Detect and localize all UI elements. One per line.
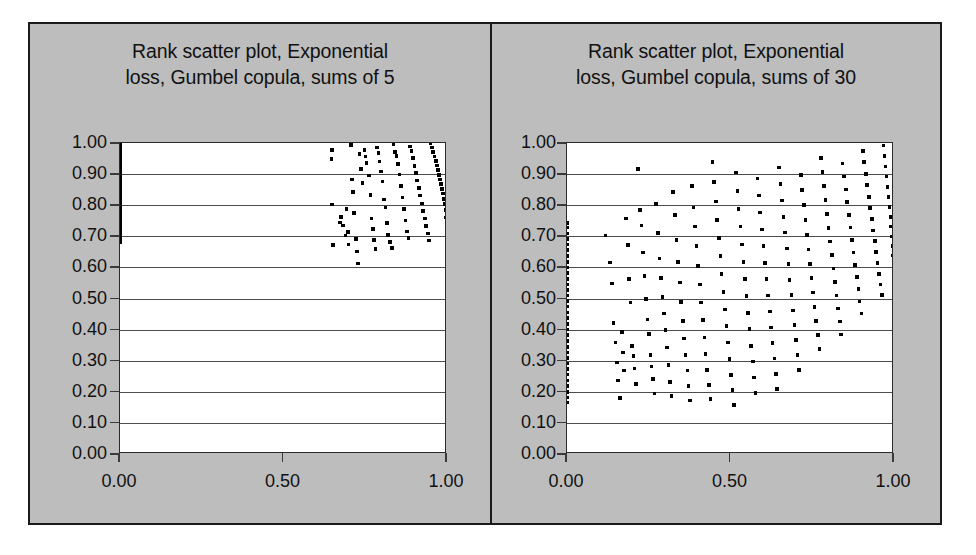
scatter-point — [610, 282, 614, 286]
scatter-point — [345, 452, 349, 453]
scatter-point — [754, 391, 758, 395]
scatter-point — [842, 175, 846, 179]
y-axis-tick-mark — [557, 360, 566, 362]
y-axis-tick-label: 0.70 — [492, 226, 556, 244]
scatter-point — [673, 452, 677, 453]
scatter-point — [566, 328, 569, 332]
scatter-point — [566, 221, 569, 225]
scatter-point — [743, 277, 747, 281]
scatter-point — [725, 324, 729, 328]
y-axis-tick-mark — [110, 173, 119, 175]
scatter-point — [420, 202, 424, 206]
y-axis-tick-mark — [557, 391, 566, 393]
scatter-point — [612, 321, 616, 325]
scatter-point — [787, 262, 791, 266]
scatter-point — [737, 207, 741, 211]
scatter-point — [824, 198, 828, 202]
plot-area-left — [119, 142, 446, 453]
scatter-point — [437, 452, 441, 453]
chart-panel-right: Rank scatter plot, Exponential loss, Gum… — [492, 24, 940, 523]
scatter-point — [791, 309, 795, 313]
scatter-point — [780, 199, 784, 203]
scatter-point — [392, 452, 396, 453]
scatter-point — [374, 247, 378, 251]
scatter-point — [363, 452, 367, 453]
scatter-point — [566, 339, 569, 343]
scatter-point — [403, 452, 407, 453]
y-axis-tick-mark — [110, 391, 119, 393]
gridline-y — [120, 361, 445, 362]
scatter-point — [712, 180, 716, 184]
scatter-point — [566, 288, 569, 292]
scatter-point — [438, 178, 442, 182]
scatter-point — [790, 293, 794, 297]
scatter-point — [647, 332, 651, 336]
scatter-point — [839, 333, 843, 337]
scatter-point — [807, 248, 811, 252]
scatter-point — [752, 376, 756, 380]
scatter-point — [729, 373, 733, 377]
scatter-point — [699, 301, 703, 305]
scatter-point — [566, 316, 569, 320]
scatter-point — [682, 337, 686, 341]
scatter-point — [364, 155, 368, 159]
scatter-point — [749, 344, 753, 348]
scatter-point — [347, 243, 351, 247]
scatter-point — [330, 157, 334, 161]
scatter-point — [845, 200, 849, 204]
scatter-point — [404, 219, 408, 223]
scatter-point — [377, 452, 381, 453]
scatter-point — [892, 142, 893, 145]
scatter-point — [424, 452, 428, 453]
scatter-point — [390, 246, 394, 250]
y-axis-tick-mark — [557, 422, 566, 424]
scatter-point — [853, 263, 857, 267]
x-axis-tick-mark — [565, 453, 567, 462]
scatter-point — [356, 452, 360, 453]
scatter-point — [426, 232, 430, 236]
scatter-point — [849, 226, 853, 230]
scatter-point — [610, 452, 614, 453]
scatter-point — [705, 368, 709, 372]
scatter-point — [883, 154, 887, 158]
scatter-point — [782, 215, 786, 219]
scatter-point — [757, 194, 761, 198]
gridline-y — [120, 423, 445, 424]
scatter-point — [351, 190, 355, 194]
scatter-point — [119, 241, 122, 245]
scatter-point — [418, 452, 422, 453]
scatter-point — [622, 369, 626, 373]
scatter-point — [889, 215, 893, 219]
scatter-point — [793, 323, 797, 327]
scatter-point — [651, 452, 655, 453]
scatter-point — [836, 307, 840, 311]
y-axis-tick-label: 0.20 — [492, 382, 556, 400]
scatter-point — [396, 162, 400, 166]
x-axis-tick-mark — [118, 453, 120, 462]
scatter-point — [756, 177, 760, 181]
scatter-point — [701, 452, 705, 453]
scatter-point — [359, 167, 363, 171]
scatter-point — [331, 243, 335, 247]
scatter-point — [880, 293, 884, 297]
x-axis-tick-label: 0.50 — [695, 472, 765, 490]
scatter-point — [566, 379, 569, 383]
y-axis-tick-label: 0.80 — [43, 195, 107, 213]
scatter-point — [763, 261, 767, 265]
scatter-point — [673, 213, 677, 217]
scatter-point — [385, 221, 389, 225]
scatter-point — [717, 236, 721, 240]
scatter-point — [566, 266, 569, 270]
scatter-point — [633, 452, 637, 453]
scatter-point — [361, 181, 365, 185]
scatter-point — [664, 328, 668, 332]
scatter-point — [877, 272, 881, 276]
y-axis-tick-label: 0.60 — [43, 257, 107, 275]
y-axis-tick-label: 0.50 — [492, 289, 556, 307]
scatter-point — [696, 264, 700, 268]
scatter-point — [814, 319, 818, 323]
scatter-point — [401, 196, 405, 200]
scatter-point — [387, 452, 391, 453]
scatter-point — [646, 452, 650, 453]
y-axis-tick-label: 0.00 — [492, 444, 556, 462]
